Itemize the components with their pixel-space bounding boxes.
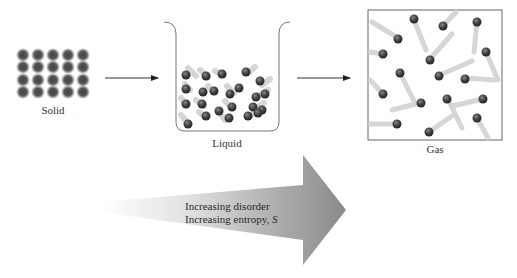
solid-lattice — [16, 48, 90, 99]
liquid-particles — [181, 67, 270, 129]
solid-label: Solid — [28, 104, 78, 116]
gas-label: Gas — [410, 143, 460, 155]
increasing-disorder-label: Increasing disorder — [185, 200, 277, 213]
increasing-entropy-label: Increasing entropy, S — [185, 213, 277, 226]
entropy-arrow-text: Increasing disorder Increasing entropy, … — [185, 200, 277, 226]
liquid-label: Liquid — [202, 137, 252, 149]
entropy-symbol: S — [272, 213, 278, 225]
entropy-prefix: Increasing entropy, — [185, 213, 272, 225]
states-of-matter-diagram — [0, 0, 517, 278]
